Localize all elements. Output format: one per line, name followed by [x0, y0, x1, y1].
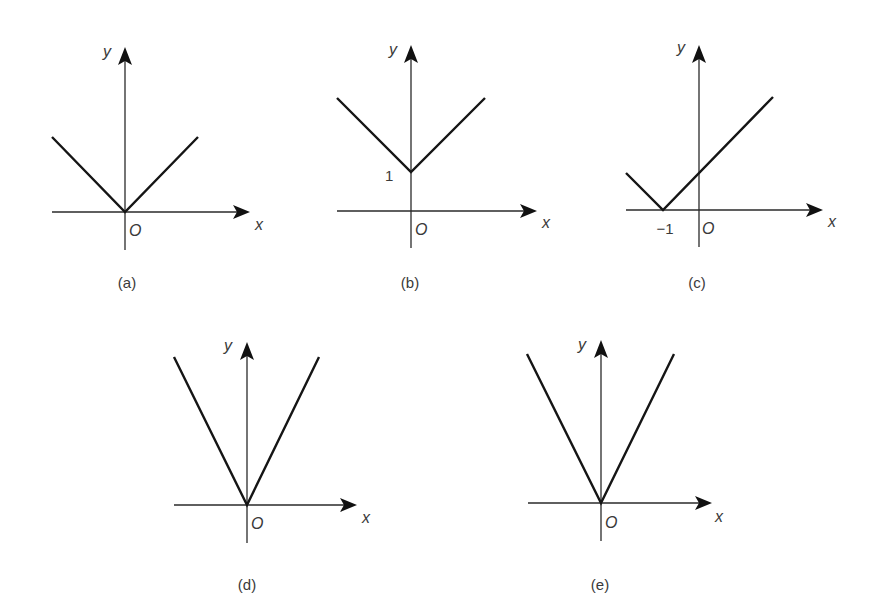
y-axis-label: y	[676, 39, 686, 56]
graph-a-caption: (a)	[118, 274, 136, 291]
y-axis-label: y	[577, 336, 587, 353]
origin-label: O	[702, 220, 714, 237]
graph-b: y x O 1 (b)	[337, 41, 551, 291]
x-axis-label: x	[361, 509, 371, 526]
graph-e: y x O (e)	[527, 336, 724, 593]
y-axis-label: y	[223, 337, 233, 354]
graph-d-caption: (d)	[238, 576, 256, 593]
graph-b-caption: (b)	[401, 274, 419, 291]
origin-label: O	[605, 514, 617, 531]
x-axis-label: x	[254, 216, 264, 233]
graph-e-caption: (e)	[591, 576, 609, 593]
graph-c-caption: (c)	[688, 274, 706, 291]
x-tick-label-neg1: −1	[656, 220, 673, 237]
origin-label: O	[129, 222, 141, 239]
y-tick-label-1: 1	[385, 167, 393, 184]
x-axis-label: x	[714, 508, 724, 525]
y-axis-label: y	[102, 43, 112, 60]
origin-label: O	[415, 221, 427, 238]
graph-a: y x O (a)	[52, 43, 264, 291]
function-graphs-figure: y x O (a) y x O 1 (b) y x O −1 (c) y	[0, 0, 873, 602]
graph-d: y x O (d)	[174, 337, 371, 593]
y-axis-label: y	[388, 41, 398, 58]
x-axis-label: x	[541, 214, 551, 231]
graph-c: y x O −1 (c)	[626, 39, 837, 291]
x-axis-label: x	[827, 213, 837, 230]
origin-label: O	[251, 515, 263, 532]
